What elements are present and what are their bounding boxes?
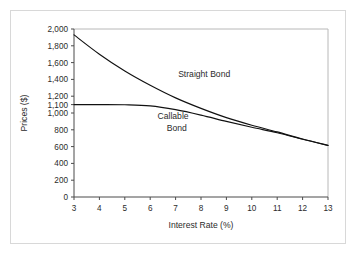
y-tick-label: 200 [54,176,68,185]
y-tick-label: 0 [63,193,68,202]
x-tick-labels: 345678910111213 [72,204,333,213]
x-tick-label: 8 [199,204,204,213]
x-tick-label: 10 [247,204,257,213]
x-axis: 345678910111213 [72,197,333,213]
y-tick-label: 1,600 [48,59,69,68]
x-tick-label: 4 [97,204,102,213]
x-tick-label: 6 [148,204,153,213]
y-tick-label: 2,000 [48,25,69,34]
y-axis: 02004006008001,0001,1001,2001,4001,6001,… [48,25,75,202]
figure-frame: 02004006008001,0001,1001,2001,4001,6001,… [10,10,346,244]
x-tick-label: 11 [273,204,282,213]
y-tick-label: 800 [54,126,68,135]
callable-bond-curve [74,105,328,146]
x-tick-label: 3 [72,204,77,213]
x-tick-label: 13 [323,204,333,213]
y-tick-label: 1,200 [48,92,69,101]
x-tick-label: 9 [224,204,229,213]
plot-area-border [74,29,328,197]
bond-price-line-chart: 02004006008001,0001,1001,2001,4001,6001,… [11,11,347,245]
x-tick-label: 5 [123,204,128,213]
y-axis-title: Prices ($) [19,94,29,131]
y-tick-label: 1,800 [48,42,69,51]
y-tick-label: 1,400 [48,75,69,84]
y-tick-label: 400 [54,159,68,168]
series-group [74,35,328,146]
x-axis-title: Interest Rate (%) [169,220,234,230]
callable-bond-label-line1: Callable [158,111,189,121]
callable-bond-label-line2: Bond [167,123,187,133]
y-tick-label: 1,100 [48,101,69,110]
y-tick-label: 1,000 [48,109,69,118]
straight-bond-label: Straight Bond [178,69,230,79]
y-tick-labels: 02004006008001,0001,1001,2001,4001,6001,… [48,25,69,202]
straight-bond-curve [74,35,328,145]
y-tick-label: 600 [54,143,68,152]
x-tick-label: 7 [173,204,178,213]
x-tick-label: 12 [298,204,308,213]
